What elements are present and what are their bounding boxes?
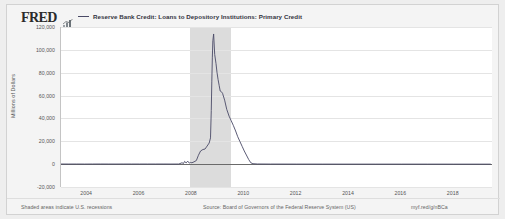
x-tick-label: 2004: [80, 190, 92, 196]
series-line-primary-credit: [61, 27, 493, 187]
y-tick-label: -20,000: [21, 184, 55, 190]
y-axis-ticks: 120,000100,00080,00060,00040,00020,0000-…: [21, 27, 55, 195]
plot-canvas[interactable]: [60, 27, 492, 187]
fred-bar-chart-icon: [63, 14, 73, 23]
x-tick-label: 2010: [237, 190, 249, 196]
chart-footer: Shaded areas indicate U.S. recessions So…: [7, 198, 500, 217]
y-axis-title: Millions of Dollars: [10, 64, 16, 128]
screenshot-frame: FRED Reserve Bank Credit: Loans to Depos…: [0, 0, 505, 219]
plot-area: Millions of Dollars 120,000100,00080,000…: [7, 27, 500, 195]
footer-source: Source: Board of Governors of the Federa…: [203, 204, 356, 210]
y-tick-label: 40,000: [21, 115, 55, 121]
y-tick-label: 100,000: [21, 47, 55, 53]
x-tick-label: 2016: [394, 190, 406, 196]
y-tick-label: 80,000: [21, 70, 55, 76]
footer-recession-note: Shaded areas indicate U.S. recessions: [21, 204, 112, 210]
chart-header: FRED Reserve Bank Credit: Loans to Depos…: [7, 5, 500, 29]
x-tick-label: 2014: [342, 190, 354, 196]
x-tick-label: 2008: [185, 190, 197, 196]
gridline: [61, 187, 492, 188]
y-tick-label: 0: [21, 161, 55, 167]
chart-legend[interactable]: Reserve Bank Credit: Loans to Depository…: [78, 13, 302, 20]
series-polyline: [61, 34, 490, 164]
y-tick-label: 120,000: [21, 24, 55, 30]
y-tick-label: 60,000: [21, 93, 55, 99]
x-tick-label: 2006: [133, 190, 145, 196]
footer-short-url[interactable]: myf.red/g/nBCa: [411, 204, 448, 210]
x-tick-label: 2018: [447, 190, 459, 196]
legend-line-swatch: [78, 16, 89, 17]
fred-chart-card: FRED Reserve Bank Credit: Loans to Depos…: [6, 4, 499, 215]
legend-series-label: Reserve Bank Credit: Loans to Depository…: [93, 13, 302, 20]
y-tick-label: 20,000: [21, 138, 55, 144]
x-tick-label: 2012: [290, 190, 302, 196]
